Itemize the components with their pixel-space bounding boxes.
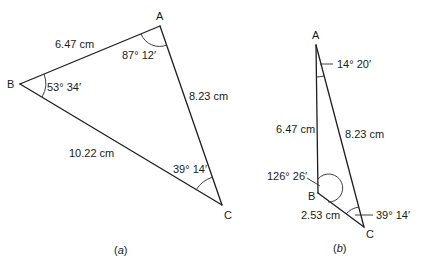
vertex-label-b-b: B (308, 190, 315, 202)
angle-label-c-a: 39° 14′ (173, 163, 207, 175)
side-ac-a (160, 26, 222, 205)
vertex-label-c-a: C (224, 209, 232, 221)
triangle-diagram: A B C 6.47 cm 8.23 cm 10.22 cm 87° 12′ 5… (0, 0, 421, 266)
vertex-label-a-b: A (312, 29, 320, 41)
side-label-ac-a: 8.23 cm (189, 90, 228, 102)
angle-label-b-b: 126° 26′ (267, 170, 307, 182)
angle-label-b-a: 53° 34′ (47, 81, 81, 93)
angle-label-c-b: 39° 14′ (376, 209, 410, 221)
figure-b: A B C 6.47 cm 8.23 cm 2.53 cm 14° 20′ 12… (267, 29, 410, 254)
side-label-bc-b: 2.53 cm (301, 209, 340, 221)
figure-a: A B C 6.47 cm 8.23 cm 10.22 cm 87° 12′ 5… (7, 10, 232, 256)
angle-label-a-b: 14° 20′ (337, 58, 371, 70)
caption-close-b: ) (343, 242, 347, 254)
caption-b: (b) (333, 242, 346, 254)
angle-label-a-a: 87° 12′ (122, 49, 156, 61)
side-label-ac-b: 8.23 cm (345, 128, 384, 140)
angle-arc-c-b (346, 207, 359, 214)
angle-arc-b-b (318, 174, 343, 202)
angle-arc-b-a (42, 74, 46, 97)
angle-arc-a-b (316, 76, 324, 77)
side-label-ab-b: 6.47 cm (276, 123, 315, 135)
side-bc-a (20, 84, 222, 205)
vertex-label-a-a: A (156, 10, 164, 22)
angle-arc-c-a (196, 177, 213, 190)
side-label-bc-a: 10.22 cm (69, 147, 114, 159)
vertex-label-c-b: C (366, 228, 374, 240)
vertex-label-b-a: B (7, 78, 14, 90)
side-ab-b (316, 45, 318, 193)
caption-close-a: ) (124, 244, 128, 256)
caption-a: (a) (114, 244, 127, 256)
side-label-ab-a: 6.47 cm (55, 38, 94, 50)
